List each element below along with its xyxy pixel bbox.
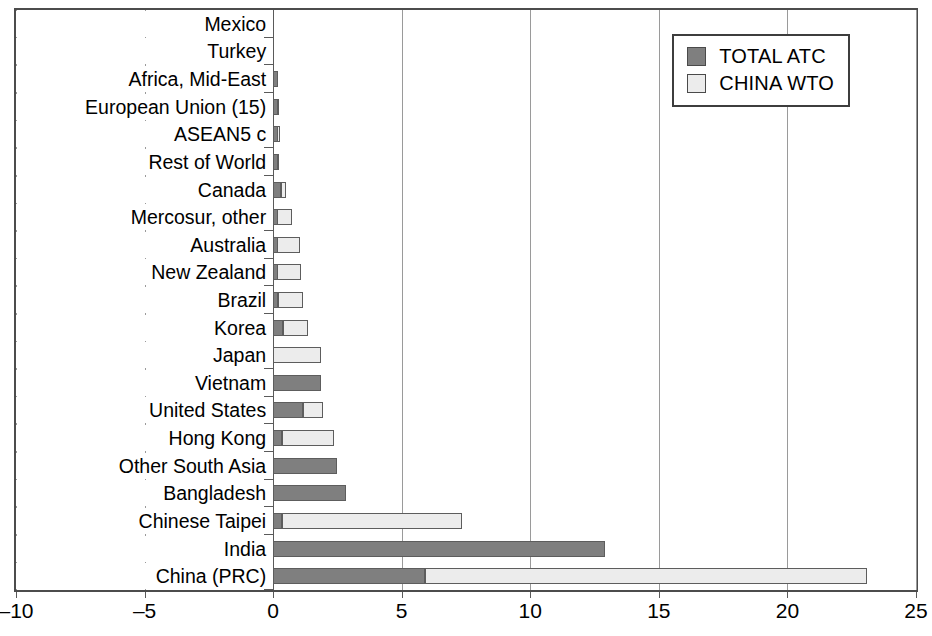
legend-label-total-atc: TOTAL ATC [719,45,826,68]
bar-row: Brazil [16,287,916,313]
chart-legend: TOTAL ATC CHINA WTO [672,34,850,107]
bar-segment-total [273,513,282,529]
bar-segment-total [273,126,278,142]
bar-segment-total [273,485,346,501]
category-label: Mexico [16,11,273,37]
bar-segment-wto [282,430,333,446]
category-label: Hong Kong [16,425,273,451]
bar-row: China (PRC) [16,563,916,589]
bar-row: Korea [16,315,916,341]
x-tick-mark [916,592,917,598]
category-label: Turkey [16,38,273,64]
category-label: Chinese Taipei [16,508,273,534]
bar-row: Vietnam [16,370,916,396]
bar-segment-total [273,458,337,474]
bar-segment-wto [274,264,301,280]
bar-row: Hong Kong [16,425,916,451]
x-tick-mark [273,592,274,598]
category-label: Bangladesh [16,480,273,506]
bar-segment-total [273,209,278,225]
category-label: United States [16,397,273,423]
bar-row: Bangladesh [16,480,916,506]
bar-segment-wto [273,347,321,363]
category-label: Brazil [16,287,273,313]
x-tick-mark [659,592,660,598]
bar-segment-wto [281,182,286,198]
chart-figure: MexicoTurkeyAfrica, Mid-EastEuropean Uni… [0,0,932,636]
bar-segment-wto [283,320,307,336]
x-tick-label: 20 [776,599,799,623]
legend-swatch-total-atc [687,47,706,66]
bar-segment-total [273,71,278,87]
bar-row: Other South Asia [16,453,916,479]
bar-row: Rest of World [16,149,916,175]
category-label: Canada [16,177,273,203]
bar-segment-wto [303,402,324,418]
bar-row: Canada [16,177,916,203]
bar-row: Japan [16,342,916,368]
bar-segment-total [273,541,605,557]
bar-segment-total [273,182,281,198]
x-tick-label: –5 [133,599,156,623]
x-tick-label: 15 [647,599,670,623]
bar-segment-total [273,154,278,170]
x-tick-mark [787,592,788,598]
bar-segment-total [273,237,278,253]
category-label: Vietnam [16,370,273,396]
category-label: New Zealand [16,259,273,285]
bar-row: India [16,536,916,562]
category-label: Africa, Mid-East [16,66,273,92]
x-tick-mark [402,592,403,598]
bar-segment-total [273,568,425,584]
legend-swatch-china-wto [687,74,706,93]
x-tick-label: 10 [519,599,542,623]
category-label: ASEAN5 c [16,121,273,147]
bar-row: Australia [16,232,916,258]
bar-segment-wto [425,568,867,584]
bar-segment-total [273,375,321,391]
bar-segment-total [273,430,282,446]
bar-segment-total [273,402,303,418]
category-label: Mercosur, other [16,204,273,230]
bar-row: Chinese Taipei [16,508,916,534]
bar-row: Mexico [16,11,916,37]
legend-item-china-wto: CHINA WTO [687,70,834,97]
bar-segment-wto [278,292,302,308]
bar-segment-total [273,292,278,308]
category-label: Rest of World [16,149,273,175]
bar-row: ASEAN5 c [16,121,916,147]
gridline-25 [916,10,917,590]
bar-segment-wto [282,513,462,529]
category-label: Japan [16,342,273,368]
x-tick-label: 5 [396,599,408,623]
bar-segment-wto [277,237,300,253]
x-tick-label: 0 [267,599,279,623]
x-tick-label: –10 [0,599,34,623]
x-axis: –10–50510152025 [14,592,918,636]
x-tick-mark [16,592,17,598]
bar-row: United States [16,397,916,423]
x-tick-label: 25 [904,599,927,623]
category-label: China (PRC) [16,563,273,589]
x-tick-mark [530,592,531,598]
bar-segment-total [273,99,278,115]
category-label: Korea [16,315,273,341]
bar-segment-total [273,320,283,336]
legend-item-total-atc: TOTAL ATC [687,43,834,70]
category-label: India [16,536,273,562]
bar-segment-total [273,264,278,280]
bar-row: New Zealand [16,259,916,285]
legend-label-china-wto: CHINA WTO [719,72,834,95]
category-label: Australia [16,232,273,258]
category-label: Other South Asia [16,453,273,479]
category-label: European Union (15) [16,94,273,120]
bar-row: Mercosur, other [16,204,916,230]
x-tick-mark [145,592,146,598]
